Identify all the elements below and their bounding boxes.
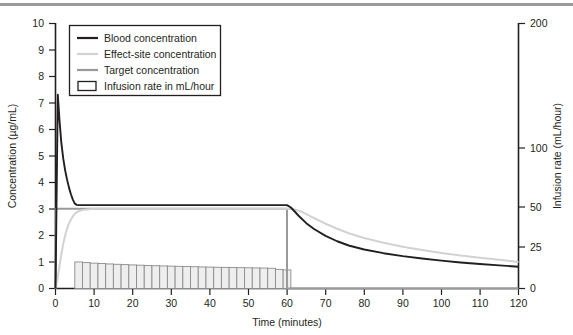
infusion-rate-bar (183, 267, 191, 289)
left-tick-5: 5 (38, 150, 44, 162)
x-tick-50: 50 (243, 297, 255, 309)
legend-label-infusion: Infusion rate in mL/hour (104, 80, 215, 92)
infusion-rate-bar (221, 267, 229, 288)
infusion-rate-bar (129, 265, 137, 289)
x-tick-0: 0 (53, 297, 59, 309)
chart-svg: 0 1 2 3 4 5 6 7 8 9 10 0 25 50 100 200 (0, 0, 573, 335)
x-tick-100: 100 (433, 297, 451, 309)
infusion-rate-bar (237, 268, 245, 289)
x-tick-10: 10 (88, 297, 100, 309)
right-tick-200: 200 (530, 17, 548, 29)
infusion-rate-bar (252, 268, 260, 289)
infusion-rate-bar (229, 268, 237, 289)
right-axis-tick-labels: 0 25 50 100 200 (530, 17, 548, 294)
left-axis-ticks (49, 24, 56, 289)
legend-label-blood: Blood concentration (104, 32, 197, 44)
infusion-rate-bar (121, 265, 129, 289)
left-tick-6: 6 (38, 123, 44, 135)
x-tick-80: 80 (358, 297, 370, 309)
infusion-rate-bar (167, 266, 175, 288)
left-tick-8: 8 (38, 70, 44, 82)
x-axis-title: Time (minutes) (252, 316, 322, 328)
infusion-rate-bar (152, 266, 160, 289)
left-tick-1: 1 (38, 256, 44, 268)
infusion-rate-bar (144, 265, 152, 288)
right-tick-25: 25 (530, 241, 542, 253)
chart-legend: Blood concentration Effect-site concentr… (70, 26, 221, 96)
infusion-rate-bar (260, 268, 268, 288)
left-tick-3: 3 (38, 203, 44, 215)
infusion-rate-bar (75, 262, 83, 289)
right-tick-50: 50 (530, 201, 542, 213)
infusion-rate-bar (106, 264, 114, 289)
legend-label-effect-site: Effect-site concentration (104, 48, 217, 60)
infusion-rate-bar (191, 267, 199, 289)
concentration-curves (56, 95, 519, 289)
right-tick-100: 100 (530, 142, 548, 154)
left-tick-4: 4 (38, 176, 44, 188)
infusion-rate-bar (113, 264, 121, 288)
legend-swatch-infusion-rect-icon (78, 82, 96, 91)
left-tick-2: 2 (38, 229, 44, 241)
infusion-rate-bar (206, 267, 214, 288)
y-axis-title: Concentration (µg/mL) (6, 104, 18, 209)
infusion-rate-bar (83, 263, 91, 289)
left-tick-0: 0 (38, 282, 44, 294)
left-axis-tick-labels: 0 1 2 3 4 5 6 7 8 9 10 (32, 17, 44, 294)
infusion-rate-bar (275, 269, 283, 288)
x-tick-90: 90 (397, 297, 409, 309)
infusion-rate-bar (137, 265, 145, 288)
pk-chart-figure: 0 1 2 3 4 5 6 7 8 9 10 0 25 50 100 200 (0, 0, 573, 335)
right-axis-ticks (519, 24, 526, 289)
infusion-rate-bar (160, 266, 168, 289)
x-tick-110: 110 (472, 297, 489, 309)
x-tick-120: 120 (510, 297, 528, 309)
infusion-rate-bar (214, 267, 222, 288)
infusion-rate-bar (245, 268, 253, 289)
legend-label-target: Target concentration (104, 64, 199, 76)
x-tick-30: 30 (165, 297, 177, 309)
infusion-rate-bar (268, 268, 276, 288)
left-tick-9: 9 (38, 44, 44, 56)
infusion-rate-bar (175, 266, 183, 288)
infusion-rate-bars (75, 262, 291, 289)
infusion-rate-bar (90, 263, 98, 288)
x-tick-70: 70 (320, 297, 332, 309)
x-tick-60: 60 (281, 297, 293, 309)
x-tick-20: 20 (127, 297, 139, 309)
infusion-rate-bar (98, 264, 106, 289)
right-tick-0: 0 (530, 282, 536, 294)
left-tick-7: 7 (38, 97, 44, 109)
left-tick-10: 10 (32, 17, 44, 29)
x-axis-tick-labels: 0 10 20 30 40 50 60 70 80 90 100 110 120 (53, 297, 528, 309)
x-tick-40: 40 (204, 297, 216, 309)
infusion-rate-bar (198, 267, 206, 289)
y2-axis-title: Infusion rate (mL/hour) (551, 103, 563, 209)
